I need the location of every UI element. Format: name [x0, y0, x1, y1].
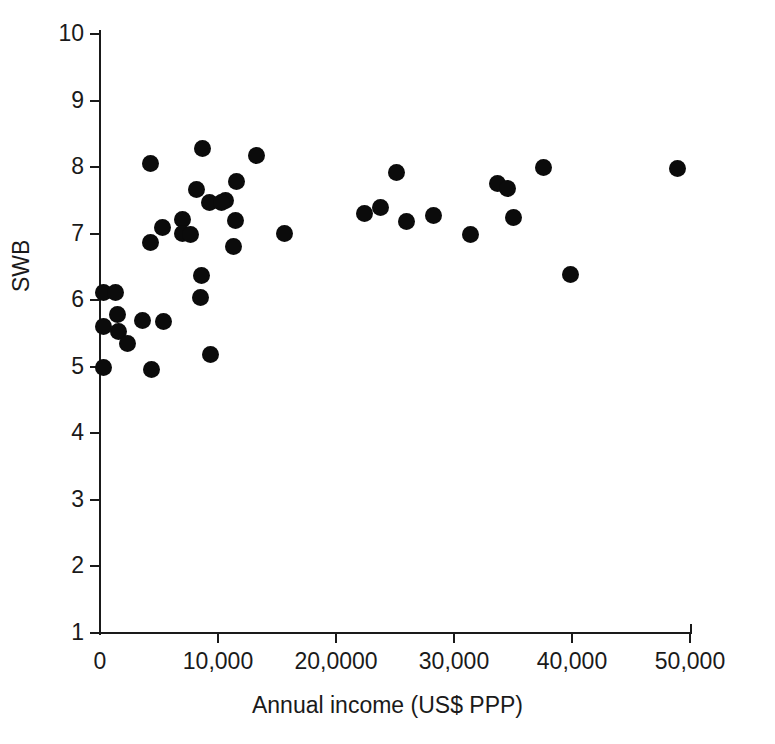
plot-data-area — [100, 34, 690, 633]
data-point — [425, 207, 442, 224]
x-tick-label-0: 0 — [94, 650, 107, 673]
x-tick-label-20000: 20,0000 — [294, 650, 377, 673]
y-tick-label-4: 4 — [40, 421, 84, 444]
data-point — [194, 140, 211, 157]
y-tick-label-9: 9 — [40, 89, 84, 112]
x-tick-50000 — [689, 634, 691, 643]
data-point — [388, 164, 405, 181]
x-tick-label-50000: 50,000 — [655, 650, 725, 673]
data-point — [372, 199, 389, 216]
y-tick-9 — [90, 100, 99, 102]
data-point — [276, 225, 293, 242]
data-point — [193, 267, 210, 284]
y-tick-label-6: 6 — [40, 288, 84, 311]
y-tick-label-3: 3 — [40, 488, 84, 511]
data-point — [535, 159, 552, 176]
data-point — [499, 180, 516, 197]
data-point — [505, 209, 522, 226]
y-tick-3 — [90, 499, 99, 501]
y-tick-label-10: 10 — [40, 22, 84, 45]
y-tick-label-2: 2 — [40, 554, 84, 577]
data-point — [188, 181, 205, 198]
y-axis-title: SWB — [8, 240, 34, 292]
y-tick-4 — [90, 432, 99, 434]
y-axis-tick-labels: 12345678910 — [0, 0, 84, 744]
data-point — [356, 205, 373, 222]
data-point — [154, 219, 171, 236]
y-tick-label-1: 1 — [40, 621, 84, 644]
data-point — [142, 234, 159, 251]
x-tick-label-40000: 40,000 — [537, 650, 607, 673]
y-tick-10 — [90, 33, 99, 35]
y-tick-2 — [90, 565, 99, 567]
y-tick-6 — [90, 299, 99, 301]
data-point — [95, 359, 112, 376]
x-tick-10000 — [217, 634, 219, 643]
y-tick-7 — [90, 233, 99, 235]
data-point — [134, 312, 151, 329]
data-point — [119, 335, 136, 352]
x-tick-label-30000: 30,000 — [419, 650, 489, 673]
data-point — [213, 194, 230, 211]
y-tick-label-7: 7 — [40, 222, 84, 245]
x-tick-label-10000: 10,000 — [183, 650, 253, 673]
x-axis-end-cap — [690, 624, 692, 634]
x-axis-title: Annual income (US$ PPP) — [0, 692, 775, 718]
x-tick-40000 — [571, 634, 573, 643]
data-point — [248, 147, 265, 164]
data-point — [192, 289, 209, 306]
x-tick-30000 — [453, 634, 455, 643]
scatter-plot-figure: 12345678910 010,00020,000030,00040,00050… — [0, 0, 775, 744]
data-point — [669, 160, 686, 177]
y-tick-1 — [90, 632, 99, 634]
y-tick-label-8: 8 — [40, 155, 84, 178]
y-tick-8 — [90, 166, 99, 168]
data-point — [227, 212, 244, 229]
x-tick-20000 — [335, 634, 337, 643]
y-tick-label-5: 5 — [40, 355, 84, 378]
